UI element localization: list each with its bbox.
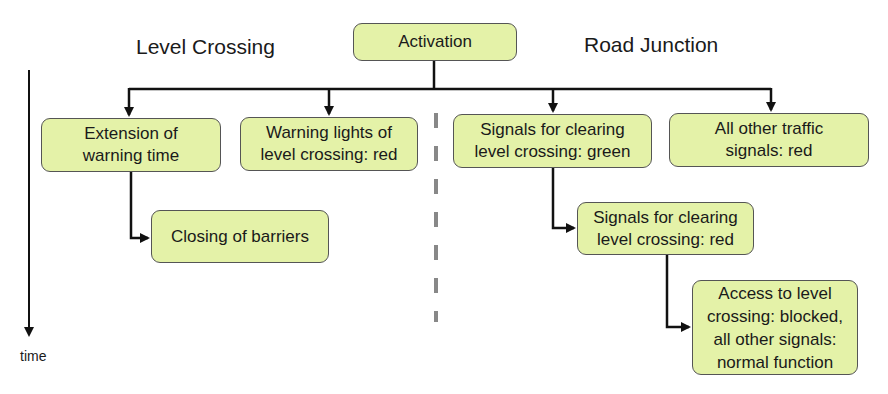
- node-all-other-signals-red: All other traffic signals: red: [669, 113, 869, 167]
- node-extension-warning-time: Extension of warning time: [41, 118, 221, 172]
- node-label: Access to level crossing: blocked, all o…: [707, 282, 843, 374]
- node-label: Activation: [398, 31, 472, 53]
- arrow-to-access-blocked: [667, 254, 689, 327]
- time-axis-label: time: [20, 348, 46, 364]
- node-label: Closing of barriers: [171, 226, 309, 248]
- node-signals-clearing-red: Signals for clearing level crossing: red: [577, 202, 754, 255]
- heading-road-junction: Road Junction: [584, 33, 718, 57]
- arrow-to-signals-red: [553, 168, 574, 228]
- arrow-to-closing-barriers: [131, 172, 148, 238]
- node-access-blocked: Access to level crossing: blocked, all o…: [692, 280, 858, 375]
- node-warning-lights-red: Warning lights of level crossing: red: [240, 117, 418, 171]
- node-label: Signals for clearing level crossing: gre…: [475, 119, 631, 163]
- node-label: All other traffic signals: red: [715, 118, 823, 162]
- node-label: Extension of warning time: [83, 123, 179, 167]
- node-label: Signals for clearing level crossing: red: [593, 207, 738, 251]
- node-activation: Activation: [353, 23, 517, 61]
- node-signals-clearing-green: Signals for clearing level crossing: gre…: [453, 114, 652, 168]
- node-label: Warning lights of level crossing: red: [260, 122, 397, 166]
- node-closing-barriers: Closing of barriers: [151, 210, 329, 263]
- heading-level-crossing: Level Crossing: [136, 35, 275, 59]
